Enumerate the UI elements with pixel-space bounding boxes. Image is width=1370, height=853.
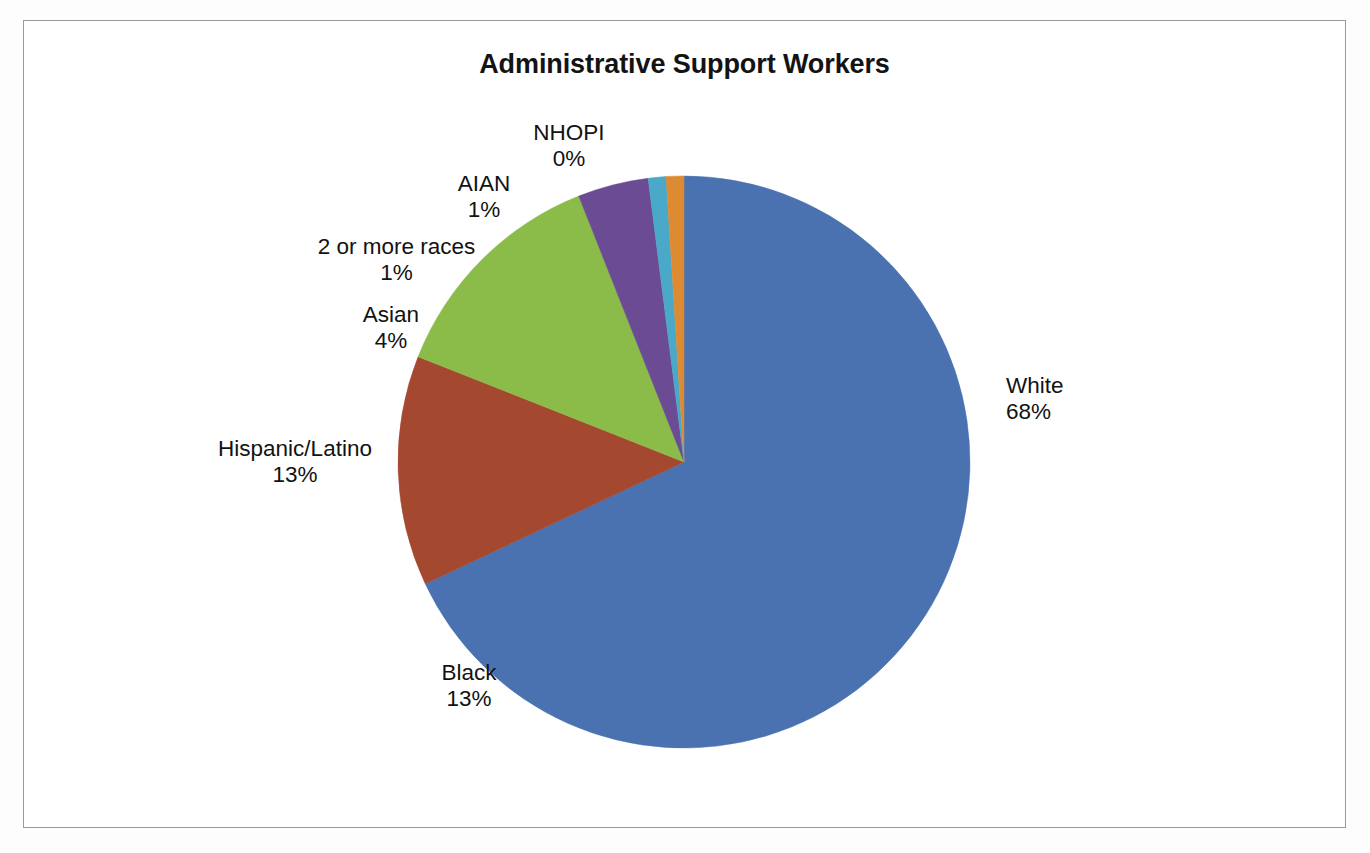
pie-label-two-or-more-races: 2 or more races 1% xyxy=(279,234,514,286)
pie-label-white-percent: 68% xyxy=(1006,399,1064,425)
pie-label-hispanic-latino-percent: 13% xyxy=(190,462,400,488)
pie-label-black-percent: 13% xyxy=(409,686,529,712)
pie-label-nhopi-name: NHOPI xyxy=(505,120,633,146)
pie-label-asian: Asian 4% xyxy=(336,302,446,354)
pie-label-black: Black 13% xyxy=(409,660,529,712)
pie-label-two-or-more-races-percent: 1% xyxy=(279,260,514,286)
pie-label-white: White 68% xyxy=(1006,373,1064,425)
chart-frame: Administrative Support Workers White 68%… xyxy=(23,20,1346,828)
pie-chart-svg xyxy=(24,21,1347,829)
pie-label-aian-name: AIAN xyxy=(428,171,540,197)
pie-label-asian-name: Asian xyxy=(336,302,446,328)
pie-label-black-name: Black xyxy=(409,660,529,686)
pie-label-hispanic-latino-name: Hispanic/Latino xyxy=(190,436,400,462)
pie-label-asian-percent: 4% xyxy=(336,328,446,354)
pie-label-aian: AIAN 1% xyxy=(428,171,540,223)
pie-label-two-or-more-races-name: 2 or more races xyxy=(279,234,514,260)
pie-chart: White 68% Black 13% Hispanic/Latino 13% … xyxy=(24,21,1347,829)
scanned-page: Administrative Support Workers White 68%… xyxy=(0,0,1370,853)
pie-label-nhopi: NHOPI 0% xyxy=(505,120,633,172)
pie-label-hispanic-latino: Hispanic/Latino 13% xyxy=(190,436,400,488)
pie-label-white-name: White xyxy=(1006,373,1064,399)
pie-label-aian-percent: 1% xyxy=(428,197,540,223)
pie-label-nhopi-percent: 0% xyxy=(505,146,633,172)
